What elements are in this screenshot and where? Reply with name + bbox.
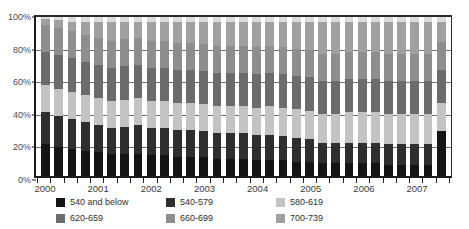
bar-segment bbox=[345, 112, 354, 142]
bar-segment bbox=[107, 128, 116, 153]
bar-column bbox=[305, 17, 314, 176]
bar-segment bbox=[424, 165, 433, 176]
legend-swatch-icon bbox=[56, 214, 65, 223]
bar-segment bbox=[397, 81, 406, 114]
bar-segment bbox=[213, 46, 222, 73]
bar-column bbox=[239, 17, 248, 176]
bar-segment bbox=[239, 106, 248, 133]
bar-segment bbox=[134, 154, 143, 176]
bar-column bbox=[68, 17, 77, 176]
bar-segment bbox=[305, 22, 314, 51]
legend-item[interactable]: 660-699 bbox=[166, 212, 276, 225]
bar-segment bbox=[305, 139, 314, 161]
bar-segment bbox=[68, 119, 77, 149]
bar-segment bbox=[120, 154, 129, 176]
bar-column bbox=[292, 17, 301, 176]
bar-column bbox=[173, 17, 182, 176]
bar-column bbox=[160, 17, 169, 176]
bar-segment bbox=[226, 159, 235, 176]
bar-segment bbox=[54, 28, 63, 55]
bar-segment bbox=[107, 68, 116, 101]
bar-segment bbox=[199, 22, 208, 44]
y-axis-tick-label: 100% bbox=[8, 13, 31, 22]
bar-segment bbox=[226, 46, 235, 73]
bar-segment bbox=[410, 54, 419, 81]
legend-item[interactable]: 580-619 bbox=[276, 196, 386, 209]
bar-column bbox=[252, 17, 261, 176]
bar-segment bbox=[173, 43, 182, 70]
bar-segment bbox=[120, 100, 129, 127]
x-axis-tick bbox=[183, 178, 184, 183]
bar-segment bbox=[410, 165, 419, 176]
bar-segment bbox=[199, 157, 208, 176]
bar-segment bbox=[397, 114, 406, 144]
bar-segment bbox=[107, 22, 116, 41]
bar-segment bbox=[252, 22, 261, 47]
bar-segment bbox=[424, 114, 433, 144]
x-axis-tick bbox=[329, 178, 330, 183]
bar-segment bbox=[318, 22, 327, 54]
bar-segment bbox=[252, 74, 261, 107]
bar-segment bbox=[213, 159, 222, 176]
legend-item[interactable]: 740 and above bbox=[56, 228, 166, 229]
credit-score-distribution-chart: 0%20%40%60%80%100% 200020012002200320042… bbox=[0, 0, 469, 229]
bar-segment bbox=[345, 52, 354, 79]
legend-label: 700-739 bbox=[290, 214, 323, 223]
bar-segment bbox=[331, 22, 340, 54]
bar-segment bbox=[134, 98, 143, 125]
bar-segment bbox=[252, 135, 261, 160]
bar-segment bbox=[239, 133, 248, 158]
bar-segment bbox=[147, 101, 156, 128]
chart-legend: 540 and below540-579580-619620-659660-69… bbox=[56, 196, 456, 229]
bar-segment bbox=[54, 20, 63, 28]
bar-segment bbox=[384, 54, 393, 81]
x-axis-tick bbox=[117, 178, 118, 183]
bar-segment bbox=[437, 103, 446, 132]
bar-segment bbox=[239, 46, 248, 73]
bar-segment bbox=[107, 101, 116, 128]
bar-column bbox=[397, 17, 406, 176]
bar-segment bbox=[134, 38, 143, 65]
bar-column bbox=[54, 17, 63, 176]
bar-segment bbox=[397, 22, 406, 54]
bar-segment bbox=[371, 22, 380, 52]
legend-item[interactable]: 620-659 bbox=[56, 212, 166, 225]
bar-segment bbox=[265, 106, 274, 135]
bar-segment bbox=[331, 143, 340, 164]
bar-segment bbox=[81, 95, 90, 122]
bar-segment bbox=[318, 143, 327, 164]
bar-segment bbox=[437, 22, 446, 43]
y-axis-tick-label: 0% bbox=[18, 176, 31, 185]
bar-column bbox=[134, 17, 143, 176]
x-axis: 20002001200220032004200520062007 bbox=[34, 178, 452, 192]
bar-segment bbox=[358, 79, 367, 112]
legend-swatch-icon bbox=[276, 198, 285, 207]
bar-segment bbox=[160, 128, 169, 155]
legend-label: 620-659 bbox=[70, 214, 103, 223]
bar-segment bbox=[279, 160, 288, 176]
legend-swatch-icon bbox=[166, 214, 175, 223]
bar-segment bbox=[305, 111, 314, 140]
bar-segment bbox=[147, 155, 156, 176]
bar-segment bbox=[239, 73, 248, 106]
legend-item[interactable]: 540-579 bbox=[166, 196, 276, 209]
legend-item[interactable]: 700-739 bbox=[276, 212, 386, 225]
bar-segment bbox=[41, 112, 50, 144]
bar-segment bbox=[345, 163, 354, 176]
legend-label: 540-579 bbox=[180, 198, 213, 207]
x-axis-year-label: 2007 bbox=[407, 184, 428, 194]
bar-segment bbox=[213, 133, 222, 158]
bar-segment bbox=[265, 135, 274, 160]
y-axis-tick-label: 20% bbox=[13, 143, 31, 152]
bar-segment bbox=[265, 46, 274, 73]
bar-segment bbox=[186, 103, 195, 130]
bar-segment bbox=[173, 157, 182, 176]
bar-segment bbox=[147, 22, 156, 41]
bar-segment bbox=[358, 22, 367, 52]
legend-item[interactable]: 540 and below bbox=[56, 196, 166, 209]
x-axis-tick bbox=[449, 178, 450, 183]
bar-segment bbox=[199, 44, 208, 71]
bar-segment bbox=[226, 73, 235, 106]
bar-segment bbox=[54, 147, 63, 176]
bar-segment bbox=[94, 22, 103, 38]
